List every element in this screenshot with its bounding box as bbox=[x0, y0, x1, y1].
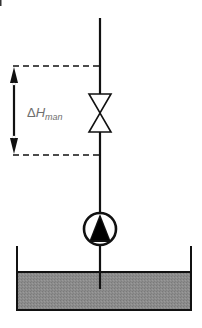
arrow-down-icon bbox=[10, 138, 18, 154]
corner-mark bbox=[0, 0, 2, 6]
tank bbox=[17, 246, 191, 310]
arrow-up-icon bbox=[10, 67, 18, 83]
head-subscript: man bbox=[45, 112, 63, 122]
head-difference-label: ΔHman bbox=[27, 106, 63, 119]
valve-icon bbox=[89, 94, 111, 132]
head-difference-arrow bbox=[10, 67, 18, 154]
pump-icon bbox=[84, 213, 116, 245]
head-variable: H bbox=[36, 105, 45, 120]
delta-symbol: Δ bbox=[27, 105, 36, 120]
pump-system-diagram bbox=[0, 0, 202, 328]
tank-liquid bbox=[17, 272, 191, 310]
